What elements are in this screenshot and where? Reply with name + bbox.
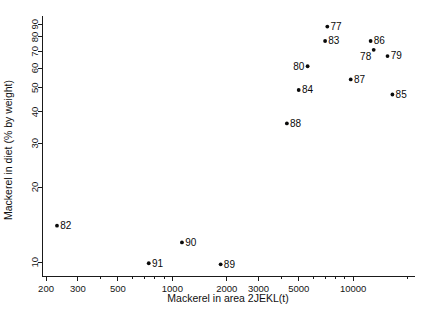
data-point: 87 (349, 74, 366, 85)
point-label: 87 (354, 74, 366, 85)
point-label: 82 (60, 220, 72, 231)
data-points: 7783867879808784858882909189 (55, 21, 407, 270)
data-point: 77 (325, 21, 342, 32)
point-marker (180, 240, 184, 244)
point-marker (349, 78, 353, 82)
point-marker (55, 224, 59, 228)
data-point: 79 (386, 50, 403, 61)
y-tick-label: 20 (29, 182, 40, 193)
point-marker (386, 54, 390, 58)
point-label: 77 (331, 21, 343, 32)
data-point: 85 (391, 89, 408, 100)
y-tick-label: 30 (29, 138, 40, 149)
plot-area: 200300500100020003000500010000 102030405… (0, 0, 421, 314)
point-label: 90 (185, 237, 197, 248)
point-marker (369, 39, 373, 43)
y-tick-label: 50 (29, 83, 40, 94)
point-label: 84 (302, 84, 314, 95)
y-axis-ticks: 102030405060708090 (29, 19, 42, 268)
point-label: 91 (152, 258, 164, 269)
y-tick-label: 40 (29, 107, 40, 118)
data-point: 91 (147, 258, 164, 269)
point-marker (372, 48, 376, 52)
point-marker (285, 121, 289, 125)
point-marker (219, 262, 223, 266)
point-label: 85 (396, 89, 408, 100)
point-marker (297, 88, 301, 92)
y-tick-label: 70 (29, 46, 40, 57)
point-label: 89 (224, 259, 236, 270)
scatter-chart: 200300500100020003000500010000 102030405… (0, 0, 421, 314)
x-tick-label: 10000 (340, 283, 366, 294)
point-marker (323, 39, 327, 43)
y-tick-label: 80 (29, 32, 40, 43)
axes (42, 16, 415, 276)
x-axis-title: Mackerel in area 2JEKL(t) (167, 292, 288, 304)
data-point: 90 (180, 237, 197, 248)
data-point: 80 (293, 61, 309, 72)
point-label: 86 (374, 35, 386, 46)
point-marker (147, 261, 151, 265)
x-tick-label: 500 (110, 283, 126, 294)
data-point: 86 (369, 35, 386, 46)
y-axis-title: Mackerel in diet (% by weight) (2, 80, 14, 220)
x-tick-label: 300 (70, 283, 86, 294)
point-label: 83 (328, 35, 340, 46)
data-point: 83 (323, 35, 340, 46)
point-label: 88 (290, 118, 302, 129)
x-tick-label: 200 (38, 283, 54, 294)
point-label: 80 (293, 61, 305, 72)
data-point: 84 (297, 84, 314, 95)
point-marker (391, 93, 395, 97)
point-marker (306, 64, 310, 68)
data-point: 88 (285, 118, 302, 129)
point-label: 79 (391, 50, 403, 61)
data-point: 78 (360, 48, 376, 62)
point-label: 78 (360, 51, 372, 62)
x-tick-label: 5000 (288, 283, 309, 294)
data-point: 89 (219, 259, 236, 270)
point-marker (325, 25, 329, 29)
data-point: 82 (55, 220, 72, 231)
y-tick-label: 90 (29, 19, 40, 30)
y-tick-label: 10 (29, 257, 40, 268)
y-tick-label: 60 (29, 63, 40, 74)
